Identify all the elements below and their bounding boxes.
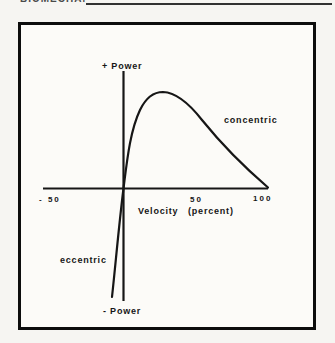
x-tick-minus-50: - 50 [39, 195, 61, 204]
concentric-annotation: concentric [224, 115, 278, 125]
header-rule-line [86, 3, 332, 5]
y-axis-positive-label: + Power [102, 61, 142, 71]
page-header: BIOMECHANICS [20, 0, 86, 5]
x-axis-title-word2: (percent) [188, 206, 234, 216]
x-tick-50: 50 [190, 195, 203, 204]
power-velocity-figure: + Power - Power concentric eccentric - 5… [18, 22, 316, 330]
y-axis-negative-label: - Power [103, 306, 141, 316]
power-velocity-chart: + Power - Power concentric eccentric - 5… [21, 25, 313, 327]
header-title: BIOMECHANICS [20, 0, 86, 4]
eccentric-annotation: eccentric [60, 255, 107, 265]
x-tick-100: 100 [253, 194, 272, 203]
x-axis-title-word1: Velocity [138, 206, 178, 216]
